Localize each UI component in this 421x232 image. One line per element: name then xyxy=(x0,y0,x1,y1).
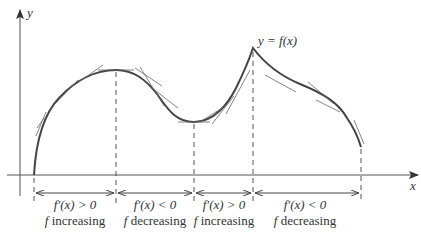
interval-1-derivative: f′(x) > 0 xyxy=(54,197,97,212)
axes: x y xyxy=(7,5,418,196)
tangent-line xyxy=(50,80,78,109)
tangent-line xyxy=(308,82,334,104)
tangent-line xyxy=(265,75,296,92)
interval-3-behavior: f increasing xyxy=(194,213,255,228)
tangent-line xyxy=(226,70,250,114)
function-curve xyxy=(34,48,361,175)
tangent-line xyxy=(212,96,234,124)
y-axis-label: y xyxy=(25,5,33,20)
interval-labels: f′(x) > 0 f increasing f′(x) < 0 f decre… xyxy=(45,197,337,228)
critical-point-guides xyxy=(34,52,361,203)
interval-2-derivative: f′(x) < 0 xyxy=(134,197,177,212)
tangent-line xyxy=(70,65,103,88)
interval-2-behavior: f decreasing xyxy=(124,213,187,228)
interval-4-derivative: f′(x) < 0 xyxy=(284,197,327,212)
interval-4-behavior: f decreasing xyxy=(274,213,337,228)
interval-1-behavior: f increasing xyxy=(45,213,106,228)
x-axis-label: x xyxy=(409,178,416,193)
interval-3-derivative: f′(x) > 0 xyxy=(203,197,246,212)
tangent-line xyxy=(140,67,164,106)
increasing-decreasing-diagram: x y y = f(x) f xyxy=(0,0,421,232)
curve-label: y = f(x) xyxy=(256,33,297,48)
